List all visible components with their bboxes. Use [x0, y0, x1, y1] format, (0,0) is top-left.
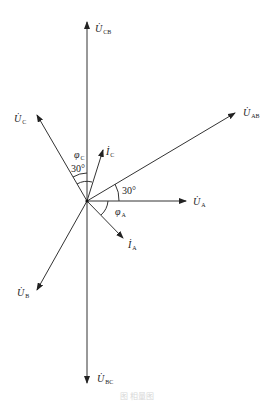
label-u-a: U̇A	[193, 196, 206, 208]
label-u-cb: U̇CB	[95, 23, 111, 35]
label-u-bc: U̇BC	[97, 373, 113, 385]
label-angle-30-upper: 30°	[71, 163, 85, 174]
label-u-c: U̇C	[14, 113, 26, 125]
label-phi-c: φC	[74, 149, 85, 161]
label-i-c: İC	[105, 146, 114, 158]
label-u-ab: U̇AB	[243, 107, 260, 119]
phasor-u-b	[37, 201, 87, 290]
phasor-labels: U̇CB U̇AB U̇A U̇C İC İA U̇B U̇BC	[14, 23, 260, 385]
arc-phi-a	[101, 201, 108, 215]
label-u-b: U̇B	[17, 287, 29, 299]
arc-phi-c	[77, 181, 92, 184]
phasor-diagram: U̇CB U̇AB U̇A U̇C İC İA U̇B U̇BC φC 30° …	[0, 0, 274, 403]
angle-labels: φC 30° 30° φA	[71, 149, 136, 218]
label-angle-30-right: 30°	[122, 185, 136, 196]
label-i-a: İA	[127, 239, 137, 251]
phasor-u-ab	[87, 113, 235, 201]
arc-30-right	[115, 184, 119, 201]
label-phi-a: φA	[115, 206, 127, 218]
figure-caption: 图 相量图	[120, 391, 155, 401]
origin-dot	[85, 199, 88, 202]
